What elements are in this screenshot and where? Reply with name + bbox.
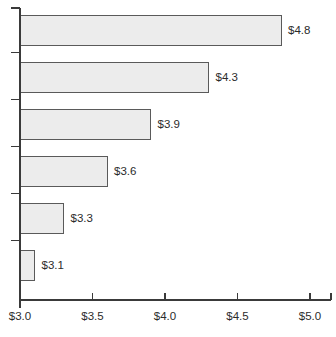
bar-value-label: $3.9 [158,118,180,130]
chart-canvas: $4.8$4.3$3.9$3.6$3.3$3.1 $3.0$3.5$4.0$4.… [0,0,336,337]
x-axis-tick-label: $3.0 [9,310,31,322]
y-axis-group [11,8,20,308]
bar [20,15,281,45]
x-axis-tick-label: $4.0 [154,310,176,322]
x-axis-group [20,293,331,300]
bar-value-labels-group: $4.8$4.3$3.9$3.6$3.3$3.1 [42,24,311,271]
x-axis-tick-labels-group: $3.0$3.5$4.0$4.5$5.0 [9,310,321,322]
bar [20,156,107,186]
bar [20,62,209,92]
bar-value-label: $3.6 [114,165,136,177]
bar-chart: $4.8$4.3$3.9$3.6$3.3$3.1 $3.0$3.5$4.0$4.… [0,0,336,337]
x-axis-tick-label: $3.5 [81,310,103,322]
x-axis-tick-label: $5.0 [299,310,321,322]
bar [20,109,151,139]
bar [20,250,35,280]
bar-value-label: $4.3 [216,71,238,83]
bar-value-label: $4.8 [288,24,310,36]
x-axis-tick-label: $4.5 [226,310,248,322]
bar-value-label: $3.1 [42,259,64,271]
bar-value-label: $3.3 [71,212,93,224]
bar [20,203,64,233]
bars-group [20,15,281,280]
